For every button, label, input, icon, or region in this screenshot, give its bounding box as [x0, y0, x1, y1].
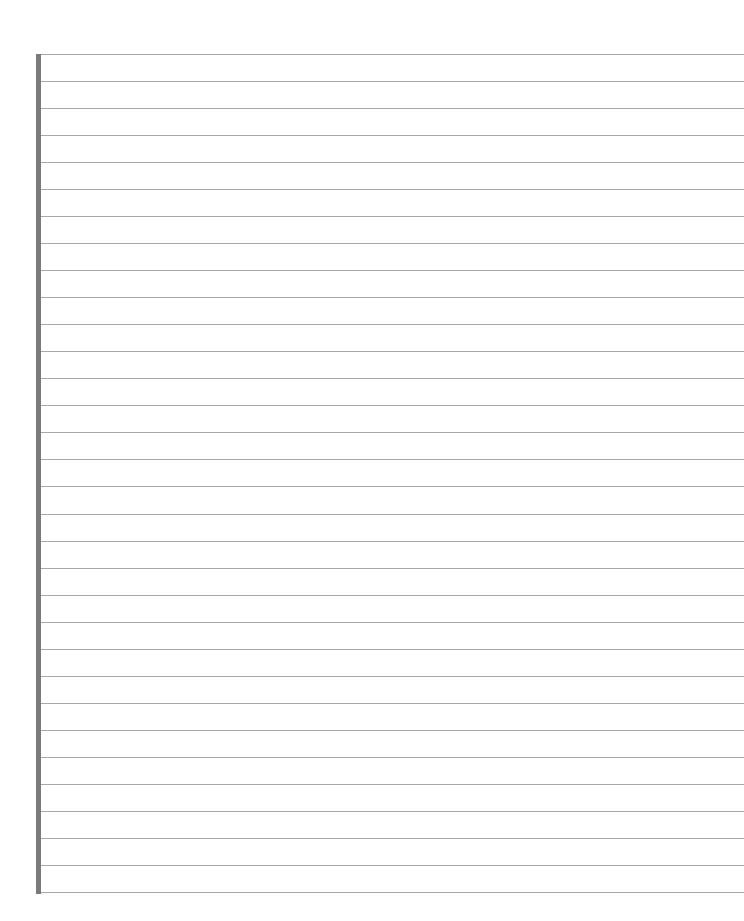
ruled-line: [41, 703, 744, 704]
ruled-line: [41, 378, 744, 379]
ruled-line: [41, 432, 744, 433]
ruled-line: [41, 459, 744, 460]
ruled-line: [41, 216, 744, 217]
ruled-line: [41, 784, 744, 785]
ruled-line: [41, 865, 744, 866]
ruled-line: [41, 622, 744, 623]
ruled-line: [41, 243, 744, 244]
ruled-line: [41, 541, 744, 542]
ruled-line: [41, 892, 744, 893]
lined-paper: [36, 54, 744, 894]
ruled-line: [41, 676, 744, 677]
ruled-line: [41, 595, 744, 596]
ruled-line: [41, 514, 744, 515]
ruled-line: [41, 757, 744, 758]
ruled-line: [41, 649, 744, 650]
ruled-line: [41, 108, 744, 109]
ruled-line: [41, 270, 744, 271]
ruled-line: [41, 81, 744, 82]
ruled-line: [41, 351, 744, 352]
ruled-line: [41, 568, 744, 569]
ruled-line: [41, 730, 744, 731]
ruled-line: [41, 162, 744, 163]
ruled-line: [41, 135, 744, 136]
ruled-line: [41, 324, 744, 325]
margin-bar: [36, 54, 41, 894]
ruled-line: [41, 838, 744, 839]
ruled-line: [41, 54, 744, 55]
ruled-line: [41, 297, 744, 298]
ruled-line: [41, 189, 744, 190]
ruled-line: [41, 486, 744, 487]
ruled-line: [41, 405, 744, 406]
ruled-line: [41, 811, 744, 812]
